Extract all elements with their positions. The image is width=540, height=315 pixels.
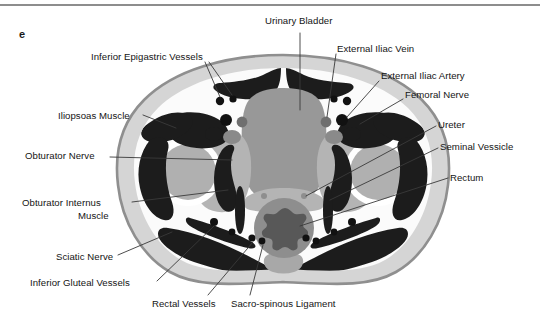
label-rectal-vessels: Rectal Vessels [152,298,216,310]
label-obturator-internus: Obturator Internus [22,197,101,209]
label-sacro-spinous: Sacro-spinous Ligament [231,298,336,310]
dot-inferior-gluteal-left [210,218,218,226]
label-external-iliac-vein: External Iliac Vein [337,43,414,55]
figure-stage: e [0,0,540,315]
label-obturator-internus-line2: Muscle [78,210,109,222]
label-rectum: Rectum [450,172,483,184]
label-urinary-bladder: Urinary Bladder [265,15,332,27]
label-external-iliac-artery: External Iliac Artery [381,70,465,82]
dot-inferior-epigastric-a [216,97,224,105]
label-iliopsoas-muscle: Iliopsoas Muscle [58,110,130,122]
label-inferior-epigastric: Inferior Epigastric Vessels [91,51,203,63]
dot-inferior-epigastric-b [229,95,236,102]
dot-rectal-vessel-left-2 [259,238,266,245]
dot-external-iliac-vein [321,117,332,128]
dot-rectal-vessel-left [248,234,255,241]
label-femoral-nerve: Femoral Nerve [405,89,469,101]
label-seminal-vessicle: Seminal Vessicle [440,141,513,153]
urinary-bladder-structure [242,88,327,201]
label-ureter: Ureter [438,119,465,131]
rectum-structure [254,198,314,258]
dot-sciatic-left [229,229,236,236]
dot-external-iliac-artery [336,114,348,126]
label-sciatic-nerve: Sciatic Nerve [56,251,113,263]
label-obturator-nerve: Obturator Nerve [25,150,95,162]
label-inferior-gluteal: Inferior Gluteal Vessels [30,277,130,289]
